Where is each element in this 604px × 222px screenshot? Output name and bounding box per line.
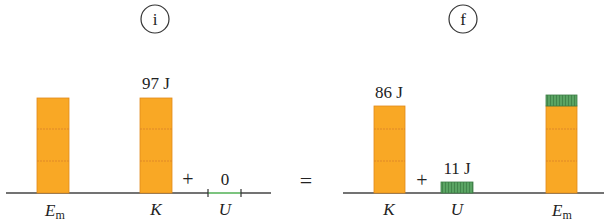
initial-k-label: K [149, 200, 163, 219]
final-plus-operator: + [416, 169, 427, 191]
initial-plus-operator: + [182, 168, 193, 190]
final-u-label: U [451, 200, 465, 219]
energy-bar-diagram: i f Em 97 J K + 0 U = 86 J K + [0, 0, 604, 222]
final-em-label: Em [551, 201, 572, 222]
final-k-label: K [382, 200, 396, 219]
initial-u-value: 0 [221, 170, 230, 189]
final-u-value: 11 J [443, 159, 471, 178]
final-k-bar [374, 106, 405, 193]
initial-em-label: Em [44, 201, 65, 222]
initial-k-value: 97 J [142, 74, 170, 93]
initial-u-label: U [219, 200, 233, 219]
equals-sign: = [300, 168, 312, 193]
final-u-bar [441, 182, 473, 193]
initial-k-bar [140, 98, 172, 193]
initial-state-badge: i [141, 5, 169, 33]
final-k-value: 86 J [375, 83, 403, 102]
initial-label: i [153, 10, 158, 29]
initial-em-bar [37, 98, 69, 193]
initial-u-bar [208, 189, 241, 197]
final-label: f [460, 10, 466, 29]
final-state-badge: f [449, 5, 477, 33]
final-em-bar [546, 95, 577, 193]
